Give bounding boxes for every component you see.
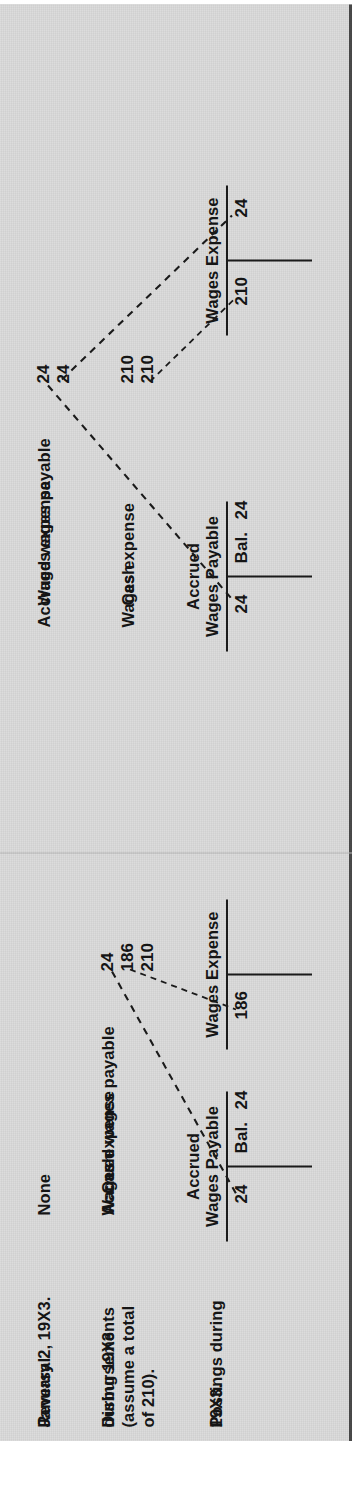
journal-line: Cash xyxy=(98,1152,118,1193)
t-account-title: Wages Payable xyxy=(203,1091,222,1241)
row-label-postings: Postings during 19X3. xyxy=(206,1383,226,1427)
row-label-line: January 2, 19X3. xyxy=(34,1296,54,1427)
col2-reversal-amount-credit: 24 xyxy=(54,364,74,383)
t-account-title: Accrued xyxy=(184,501,203,651)
row-label-line: (assume a total xyxy=(118,1305,138,1427)
col1-amount-accrued: 24 xyxy=(98,952,118,971)
t-account-credit-label: Bal. xyxy=(232,531,252,563)
t-account-credit-amount: 24 xyxy=(232,198,252,217)
scanned-sheet: Reversal January 2, 19X3. Disbursements … xyxy=(0,4,352,1441)
t-account-credit-amount: 24 xyxy=(232,1090,252,1109)
col2-amount-cash: 210 xyxy=(138,354,158,383)
t-account-title: Wages Payable xyxy=(203,501,222,651)
t-account-debit-amount: 210 xyxy=(232,276,252,305)
diagram-board: Reversal January 2, 19X3. Disbursements … xyxy=(0,4,352,1441)
t-account-title: Wages Expense xyxy=(203,889,222,1059)
col1-amount-cash: 210 xyxy=(138,942,158,971)
col2-amount-wages-expense: 210 xyxy=(118,354,138,383)
row-label-line: of 210). xyxy=(138,1305,158,1427)
journal-line: Wages expense xyxy=(34,481,54,606)
t-account-debit-amount: 24 xyxy=(232,594,252,613)
row-label-disbursements: Disbursements during 19X3 (assume a tota… xyxy=(98,1305,158,1427)
row-label-line: 19X3. xyxy=(206,1383,226,1427)
t-account-title: Wages Expense xyxy=(203,175,222,345)
col2-reversal-amount-debit: 24 xyxy=(34,364,54,383)
row-label-reversal: Reversal January 2, 19X3. xyxy=(34,1296,54,1427)
row-label-line: during 19X3 xyxy=(98,1305,118,1427)
t-account-debit-amount: 186 xyxy=(232,990,252,1019)
column-divider xyxy=(0,852,352,853)
t-account-credit-label: Bal. xyxy=(232,1121,252,1153)
posting-connectors xyxy=(0,4,352,1441)
paper-grain xyxy=(0,4,352,1441)
bottom-rule xyxy=(349,4,352,1441)
page-canvas: Reversal January 2, 19X3. Disbursements … xyxy=(0,0,357,1488)
t-account-credit-amount: 24 xyxy=(232,500,252,519)
col1-reversal-entry-line: None xyxy=(34,1173,54,1215)
t-account-debit-amount: 24 xyxy=(232,1184,252,1203)
journal-line: Cash xyxy=(118,564,138,605)
col1-amount-wages-expense: 186 xyxy=(118,942,138,971)
t-account-title: Accrued xyxy=(184,1091,203,1241)
